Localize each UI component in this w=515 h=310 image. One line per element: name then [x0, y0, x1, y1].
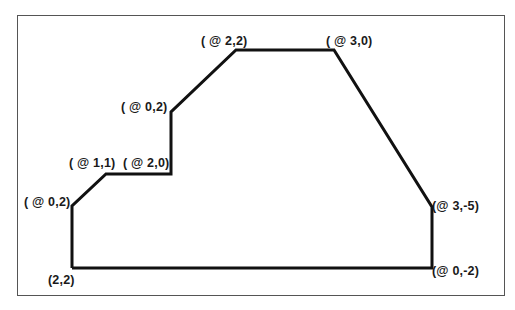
label-relative-point-4: ( @ 0,2) [121, 100, 167, 114]
label-relative-point-3: ( @ 2,0) [123, 156, 169, 170]
label-relative-point-8: (@ 0,-2) [432, 264, 479, 278]
diagram-stage: (2,2) ( @ 0,2) ( @ 1,1) ( @ 2,0) ( @ 0,2… [0, 0, 515, 310]
label-relative-point-1: ( @ 0,2) [24, 195, 70, 209]
label-start-point: (2,2) [48, 273, 75, 287]
label-relative-point-2: ( @ 1,1) [69, 156, 115, 170]
label-relative-point-6: ( @ 3,0) [326, 34, 372, 48]
label-relative-point-5: ( @ 2,2) [201, 34, 247, 48]
label-relative-point-7: (@ 3,-5) [432, 199, 479, 213]
